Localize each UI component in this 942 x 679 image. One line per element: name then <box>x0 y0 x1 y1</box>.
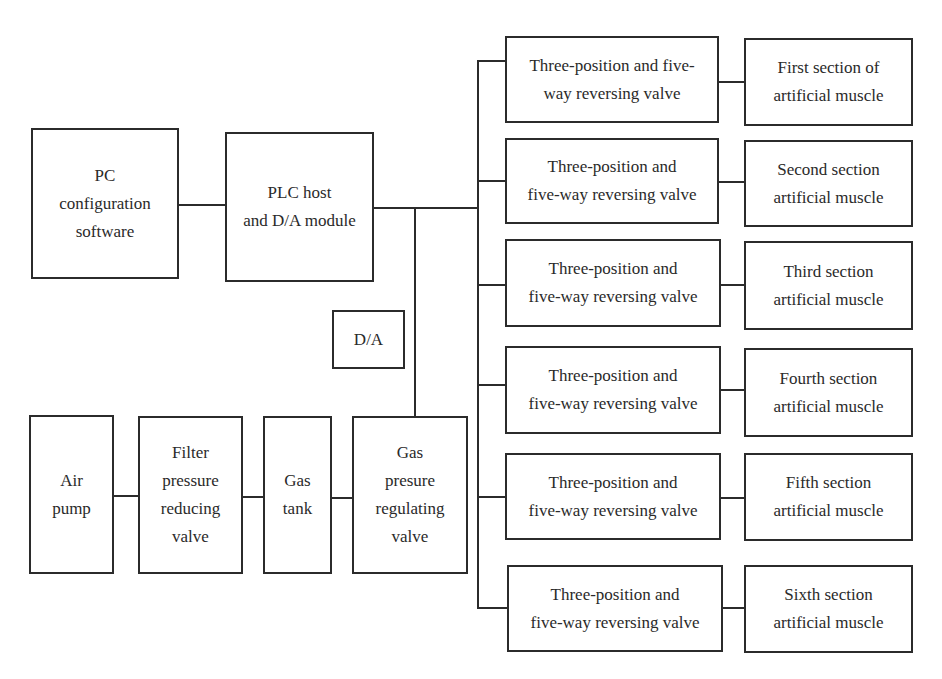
gas-tank-box: Gas tank <box>263 416 332 574</box>
gas-tank-label: Gas tank <box>283 467 312 523</box>
reversing-valve-1: Three-position and five- way reversing v… <box>505 36 719 123</box>
artificial-muscle-3: Third section artificial muscle <box>744 241 913 330</box>
pc-configuration-software-box: PC configuration software <box>31 128 179 279</box>
bus-valve-6-connector <box>477 607 508 609</box>
muscle-5-label: Fifth section artificial muscle <box>774 469 884 525</box>
artificial-muscle-2: Second section artificial muscle <box>744 140 913 227</box>
valve-3-label: Three-position and five-way reversing va… <box>529 255 698 311</box>
gas-regulating-label: Gas presure regulating valve <box>376 439 445 551</box>
plc-label: PLC host and D/A module <box>243 179 355 235</box>
reversing-valve-5: Three-position and five-way reversing va… <box>505 453 721 540</box>
main-bus <box>477 60 479 609</box>
muscle-4-label: Fourth section artificial muscle <box>774 365 884 421</box>
pc-label: PC configuration software <box>59 162 151 246</box>
valve-muscle-5-connector <box>721 497 745 499</box>
plc-bus-connector <box>374 207 478 209</box>
valve-2-label: Three-position and five-way reversing va… <box>528 153 697 209</box>
valve-muscle-6-connector <box>723 607 745 609</box>
plc-host-box: PLC host and D/A module <box>225 132 374 282</box>
valve-4-label: Three-position and five-way reversing va… <box>529 362 698 418</box>
plc-regulator-connector <box>414 207 416 417</box>
muscle-1-label: First section of artificial muscle <box>774 54 884 110</box>
bus-valve-5-connector <box>477 496 506 498</box>
bus-valve-1-connector <box>477 60 506 62</box>
bus-valve-2-connector <box>477 180 506 182</box>
muscle-2-label: Second section artificial muscle <box>774 156 884 212</box>
valve-muscle-2-connector <box>719 181 745 183</box>
filter-valve-box: Filter pressure reducing valve <box>138 416 243 574</box>
filter-label: Filter pressure reducing valve <box>161 439 220 551</box>
reversing-valve-4: Three-position and five-way reversing va… <box>505 346 721 434</box>
air-pump-label: Air pump <box>52 467 91 523</box>
pump-filter-connector <box>114 495 139 497</box>
artificial-muscle-4: Fourth section artificial muscle <box>744 348 913 437</box>
artificial-muscle-5: Fifth section artificial muscle <box>744 453 913 541</box>
valve-1-label: Three-position and five- way reversing v… <box>529 52 694 108</box>
bus-valve-3-connector <box>477 284 506 286</box>
tank-regulator-connector <box>332 497 353 499</box>
bus-valve-4-connector <box>477 384 506 386</box>
gas-regulating-valve-box: Gas presure regulating valve <box>352 416 468 574</box>
air-pump-box: Air pump <box>29 415 114 574</box>
valve-5-label: Three-position and five-way reversing va… <box>529 469 698 525</box>
valve-muscle-3-connector <box>721 284 745 286</box>
reversing-valve-3: Three-position and five-way reversing va… <box>505 239 721 327</box>
artificial-muscle-1: First section of artificial muscle <box>744 38 913 126</box>
muscle-3-label: Third section artificial muscle <box>774 258 884 314</box>
valve-6-label: Three-position and five-way reversing va… <box>531 581 700 637</box>
valve-muscle-4-connector <box>721 389 745 391</box>
da-box: D/A <box>332 310 405 369</box>
artificial-muscle-6: Sixth section artificial muscle <box>744 565 913 653</box>
reversing-valve-6: Three-position and five-way reversing va… <box>507 565 723 652</box>
reversing-valve-2: Three-position and five-way reversing va… <box>505 138 719 224</box>
valve-muscle-1-connector <box>719 81 745 83</box>
pc-plc-connector <box>179 204 226 206</box>
filter-tank-connector <box>243 496 264 498</box>
muscle-6-label: Sixth section artificial muscle <box>774 581 884 637</box>
da-label: D/A <box>354 326 383 354</box>
